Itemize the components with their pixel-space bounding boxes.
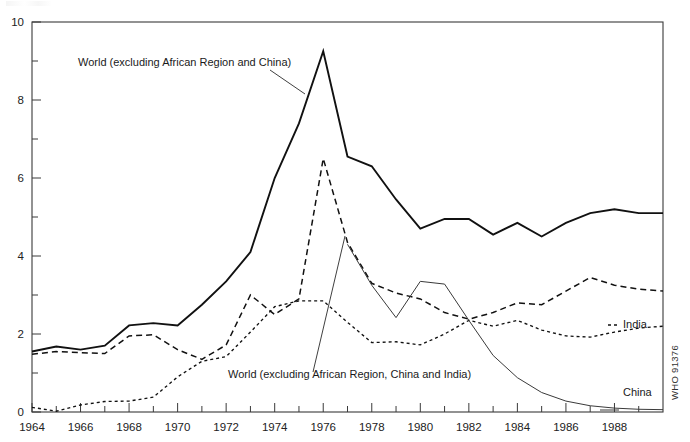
- x-tick-label: 1976: [310, 421, 336, 433]
- x-tick-label: 1970: [165, 421, 191, 433]
- series-line: [32, 159, 663, 360]
- series-label-india: India: [623, 318, 648, 330]
- series-line: [32, 301, 663, 411]
- x-tick-label: 1964: [19, 421, 45, 433]
- who-credit-label: WHO 91376: [669, 345, 680, 400]
- x-tick-label: 1974: [262, 421, 288, 433]
- chart-figure: 0246810 19641966196819701972197419761978…: [0, 0, 690, 442]
- series-label-china: China: [623, 386, 653, 398]
- y-tick-label: 2: [18, 328, 24, 340]
- y-tick-label: 6: [18, 172, 24, 184]
- annotation-world-excl-africa-china: World (excluding African Region and Chin…: [78, 56, 291, 68]
- axis-ticks: [32, 22, 639, 412]
- series-end-labels: IndiaChina: [600, 318, 653, 410]
- series-line: [32, 51, 663, 351]
- annotation-leader-lines: [270, 70, 345, 372]
- x-tick-label: 1986: [553, 421, 579, 433]
- y-tick-label: 4: [18, 250, 25, 262]
- line-chart-canvas: 0246810 19641966196819701972197419761978…: [0, 0, 690, 442]
- leader-line: [270, 70, 305, 94]
- x-tick-label: 1978: [359, 421, 385, 433]
- x-tick-label: 1968: [116, 421, 142, 433]
- y-tick-label: 0: [18, 406, 24, 418]
- y-tick-label: 8: [18, 94, 24, 106]
- y-tick-label: 10: [11, 16, 24, 28]
- x-tick-label: 1984: [505, 421, 531, 433]
- x-tick-label: 1966: [68, 421, 94, 433]
- x-tick-label: 1972: [213, 421, 239, 433]
- leader-line: [313, 236, 345, 372]
- x-tick-label: 1980: [408, 421, 434, 433]
- y-axis-tick-labels: 0246810: [11, 16, 24, 418]
- who-credit-code: WHO 91376: [669, 345, 680, 400]
- annotation-world-excl-africa-china-india: World (excluding African Region, China a…: [228, 368, 471, 380]
- plot-frame: [32, 22, 663, 412]
- x-tick-label: 1982: [456, 421, 482, 433]
- data-series-lines: [32, 51, 663, 411]
- x-tick-label: 1988: [602, 421, 628, 433]
- x-axis-tick-labels: 1964196619681970197219741976197819801982…: [19, 421, 627, 433]
- series-line: [348, 244, 664, 409]
